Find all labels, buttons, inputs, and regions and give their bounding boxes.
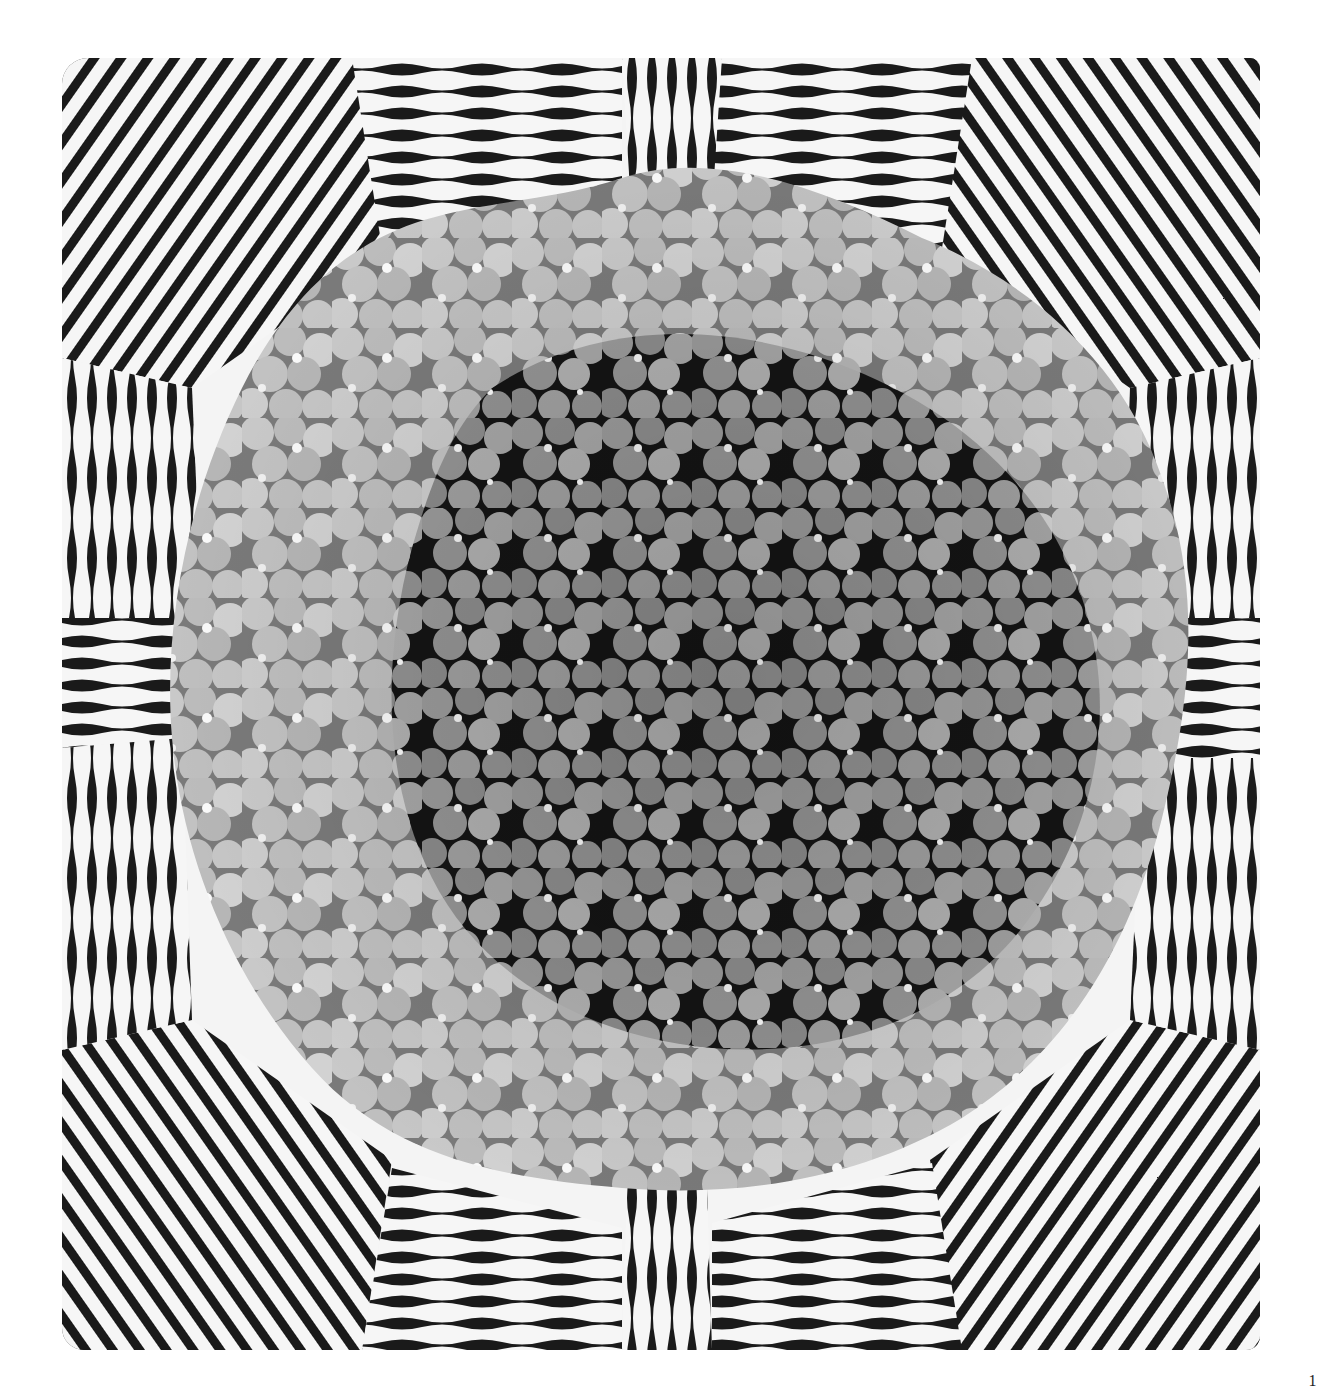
page-number: 1 xyxy=(1309,1372,1318,1390)
scarf-photograph xyxy=(62,58,1260,1350)
page: 1 xyxy=(0,0,1319,1400)
scarf-illustration xyxy=(62,58,1260,1350)
blossom-cluster xyxy=(170,168,1188,1191)
